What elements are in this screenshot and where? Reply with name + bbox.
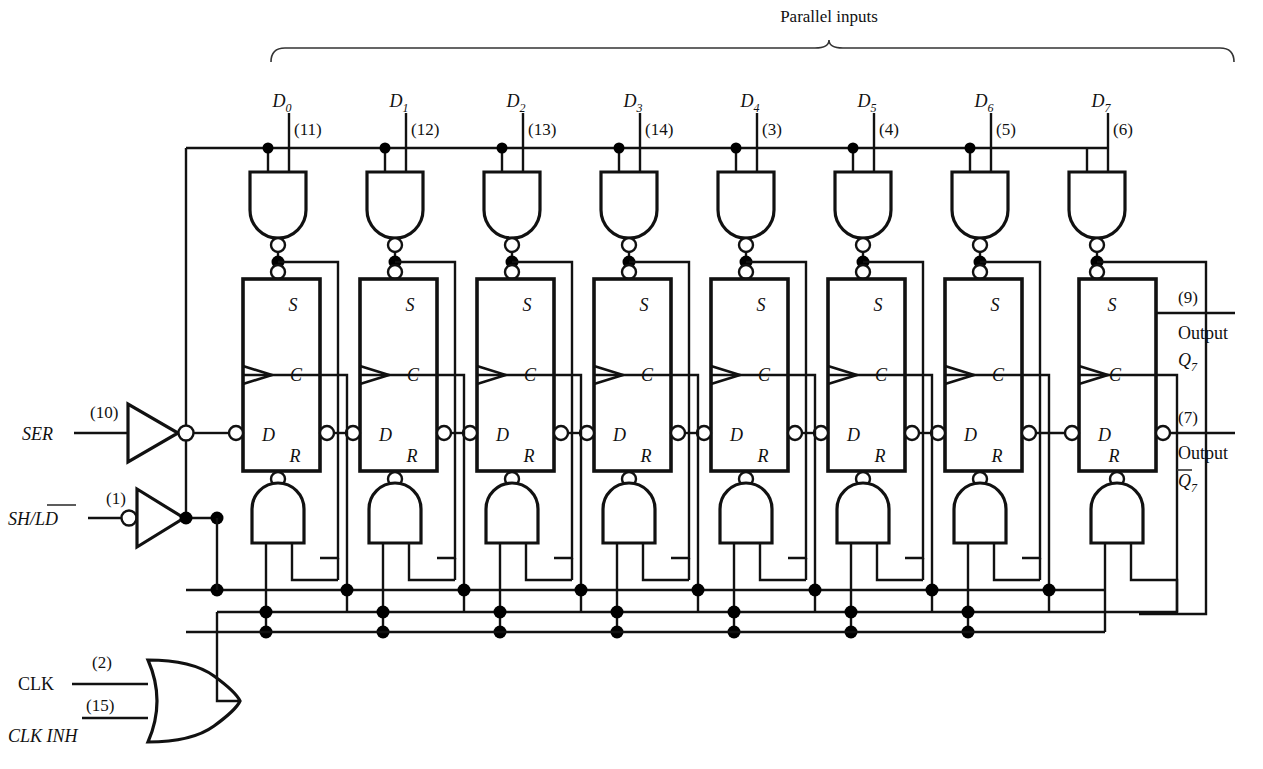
ff-label-d-4: D xyxy=(729,425,743,445)
ff-label-r-4: R xyxy=(757,446,769,466)
clk-input-label: CLK xyxy=(18,674,54,694)
output-q7bar-group: (7) Output Q7 xyxy=(1177,408,1228,495)
input-label-d6: D6 xyxy=(974,91,994,115)
pin-number-d1: (12) xyxy=(411,120,439,139)
input-label-d3: D3 xyxy=(623,91,643,115)
qbar-output-bubble-6 xyxy=(1022,426,1036,440)
parallel-input-pin-numbers: (11) (12) (13) (14) (3) (4) (5) (6) xyxy=(294,120,1133,139)
ff-label-r-5: R xyxy=(874,446,886,466)
pin-number-d7: (6) xyxy=(1113,120,1133,139)
input-label-d4: D4 xyxy=(740,91,760,115)
ff-label-d-7: D xyxy=(1097,425,1111,445)
ff-label-r-0: R xyxy=(289,446,301,466)
ff-label-s-3: S xyxy=(640,295,649,315)
ff-label-s-4: S xyxy=(757,295,766,315)
qbar-output-bubble-7 xyxy=(1156,426,1170,440)
ff-label-s-6: S xyxy=(991,295,1000,315)
shld-pin-number: (1) xyxy=(106,489,126,508)
top-nand-gates xyxy=(250,172,1125,238)
clkinh-pin-number: (15) xyxy=(86,696,114,715)
ser-inverter xyxy=(128,404,178,462)
ff-label-r-1: R xyxy=(406,446,418,466)
shld-input-label: SH/LD xyxy=(8,509,58,529)
ff-label-s-2: S xyxy=(523,295,532,315)
ff-label-d-1: D xyxy=(378,425,392,445)
input-label-d0: D0 xyxy=(272,91,292,115)
qbar-output-bubble-0 xyxy=(320,426,334,440)
ser-inverter-bubble xyxy=(179,426,194,441)
parallel-input-labels: D0 D1 D2 D3 D4 D5 D6 D7 xyxy=(272,91,1112,115)
ff-label-d-2: D xyxy=(495,425,509,445)
input-label-d2: D2 xyxy=(506,91,526,115)
qbar-output-bubble-1 xyxy=(437,426,451,440)
ff-label-d-0: D xyxy=(261,425,275,445)
pin-number-d0: (11) xyxy=(294,120,322,139)
ff-label-s-1: S xyxy=(406,295,415,315)
shld-inverter-input-bubble xyxy=(122,511,137,526)
feedback-joins xyxy=(338,558,1040,580)
qbar-output-bubble-3 xyxy=(671,426,685,440)
pin-number-d5: (4) xyxy=(879,120,899,139)
shld-bus-taps xyxy=(268,148,1087,172)
ff-label-r-7: R xyxy=(1108,446,1120,466)
qbar-output-bubble-5 xyxy=(905,426,919,440)
clkinh-input-label: CLK INH xyxy=(8,726,79,746)
ff-label-s-5: S xyxy=(874,295,883,315)
output-q7bar-pin: (7) xyxy=(1178,408,1198,427)
ff-label-r-2: R xyxy=(523,446,535,466)
shld-inverter xyxy=(137,489,184,547)
qbar-output-bubble-4 xyxy=(788,426,802,440)
ser-input-label: SER xyxy=(22,424,53,444)
output-q7bar-signal: Q7 xyxy=(1178,471,1198,495)
d-input-bubble-0 xyxy=(229,426,243,440)
shld-top-bus-junction xyxy=(180,512,193,525)
parallel-inputs-brace xyxy=(271,40,1234,62)
input-label-d1: D1 xyxy=(389,91,409,115)
parallel-inputs-title: Parallel inputs xyxy=(780,7,878,26)
ff-label-d-5: D xyxy=(846,425,860,445)
input-label-d5: D5 xyxy=(857,91,877,115)
logic-diagram-svg: Parallel inputs D0 D1 D2 D3 D4 D5 D6 D7 … xyxy=(0,0,1263,769)
output-q7-word: Output xyxy=(1178,323,1228,343)
output-q7-pin: (9) xyxy=(1178,288,1198,307)
input-label-d7: D7 xyxy=(1091,91,1112,115)
ff-label-s-7: S xyxy=(1108,295,1117,315)
output-q7-signal: Q7 xyxy=(1178,350,1198,374)
ff-label-r-6: R xyxy=(991,446,1003,466)
pin-number-d6: (5) xyxy=(996,120,1016,139)
ff-label-s-0: S xyxy=(289,295,298,315)
diagram-canvas: Parallel inputs D0 D1 D2 D3 D4 D5 D6 D7 … xyxy=(0,0,1263,769)
pin-number-d2: (13) xyxy=(528,120,556,139)
output-q7-group: (9) Output Q7 xyxy=(1178,288,1228,374)
top-nand-outputs xyxy=(271,238,1104,279)
output-q7bar-word: Output xyxy=(1178,443,1228,463)
pin-number-d3: (14) xyxy=(645,120,673,139)
ff-label-r-3: R xyxy=(640,446,652,466)
ser-pin-number: (10) xyxy=(90,403,118,422)
qbar-output-bubble-2 xyxy=(554,426,568,440)
d-input-bubble-7 xyxy=(1065,426,1079,440)
shld-input-label-group: SH/LD xyxy=(8,505,76,529)
pin-number-d4: (3) xyxy=(762,120,782,139)
ff-label-d-3: D xyxy=(612,425,626,445)
clk-pin-number: (2) xyxy=(92,653,112,672)
ff-label-d-6: D xyxy=(963,425,977,445)
